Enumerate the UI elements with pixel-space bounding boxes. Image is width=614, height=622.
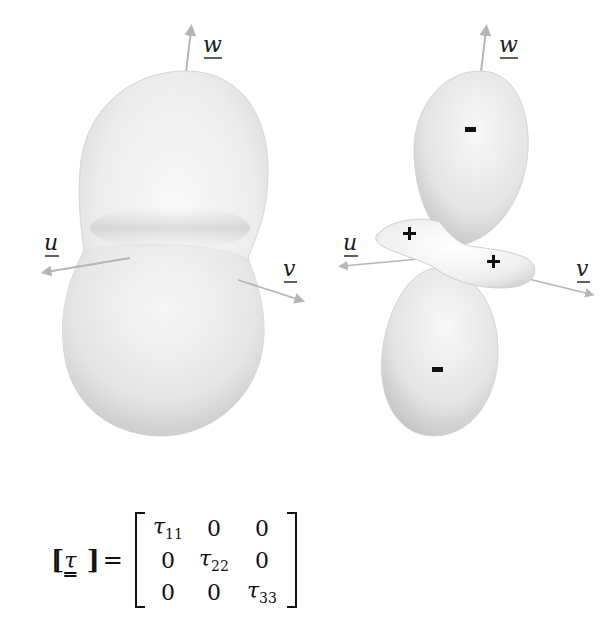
- matrix-cell-1-1: τ11: [153, 514, 183, 542]
- matrix-cell-2-1: 0: [161, 548, 175, 573]
- matrix-cell-1-2: 0: [207, 516, 221, 541]
- right-lower-minus-sign: [432, 367, 443, 372]
- matrix-bracket-left: [135, 512, 145, 608]
- left-u-label: u: [44, 230, 58, 255]
- tensor-symbol: τ: [64, 548, 76, 573]
- equals-sign: =: [103, 546, 123, 574]
- right-v-label: v: [576, 256, 589, 281]
- left-w-axis: [186, 30, 191, 72]
- matrix-cell-2-3: 0: [255, 548, 269, 573]
- matrix-bracket-right: [287, 512, 297, 608]
- double-bracket-open: [[: [52, 545, 56, 575]
- right-upper-minus-sign: [465, 127, 476, 132]
- diagonal-matrix: τ11 0 0 0 τ22 0 0 0 τ33: [135, 512, 297, 608]
- right-lower-lobe: [381, 268, 498, 436]
- left-peanut-waist-shadow: [90, 206, 250, 250]
- equation-lhs: [[ τ ]]: [52, 545, 91, 575]
- matrix-cell-3-1: 0: [161, 580, 175, 605]
- matrix-cell-1-3: 0: [255, 516, 269, 541]
- right-w-label: w: [499, 32, 518, 57]
- tensor-matrix-equation: [[ τ ]] = τ11 0 0 0 τ22 0 0 0 τ33: [52, 508, 297, 612]
- double-bracket-close: ]]: [86, 545, 90, 575]
- left-v-label: v: [283, 256, 296, 281]
- left-peanut-lower-lobe: [63, 243, 264, 436]
- matrix-cell-3-2: 0: [207, 580, 221, 605]
- left-panel: w u v: [44, 30, 300, 436]
- matrix-cell-3-3: τ33: [247, 578, 277, 606]
- right-u-label: u: [343, 230, 357, 255]
- left-w-label: w: [203, 32, 222, 57]
- right-w-axis: [481, 30, 486, 72]
- matrix-cell-2-2: τ22: [199, 546, 229, 574]
